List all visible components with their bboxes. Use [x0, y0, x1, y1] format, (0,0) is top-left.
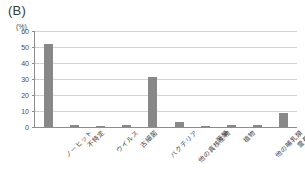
figure-panel-b: (B) (%) 0102030405060 ノーヒット不特定ウイルス古細菌バクテ… [0, 0, 305, 185]
y-axis-tick-label: 0 [7, 124, 29, 131]
plot-area [35, 31, 297, 127]
bar [44, 44, 53, 127]
x-axis-tick-label: ウイルス [115, 130, 139, 154]
x-axis-tick-labels: ノーヒット不特定ウイルス古細菌バクテリア他の真核生物菌類植物他の哺乳類霊長類 [35, 128, 297, 185]
y-axis-tick-mark [32, 95, 35, 96]
x-axis-tick-label: 植物 [242, 130, 256, 144]
y-axis-tick-label: 40 [7, 60, 29, 67]
y-axis-tick-label: 30 [7, 76, 29, 83]
y-axis-tick-mark [32, 127, 35, 128]
y-axis-tick-label: 20 [7, 92, 29, 99]
page-title: (B) [8, 4, 26, 17]
y-axis-tick-label: 10 [7, 108, 29, 115]
y-axis-tick-label: 50 [7, 44, 29, 51]
y-axis-tick-mark [32, 63, 35, 64]
bars-layer [35, 31, 297, 127]
bar [148, 77, 157, 127]
x-axis-tick-label: バクテリア [169, 130, 198, 159]
y-axis-tick-label: 60 [7, 28, 29, 35]
y-axis-tick-mark [32, 31, 35, 32]
x-axis-tick-label: 古細菌 [139, 130, 158, 149]
y-axis-tick-mark [32, 79, 35, 80]
y-axis-tick-mark [32, 111, 35, 112]
y-axis-tick-mark [32, 47, 35, 48]
bar [279, 113, 288, 127]
